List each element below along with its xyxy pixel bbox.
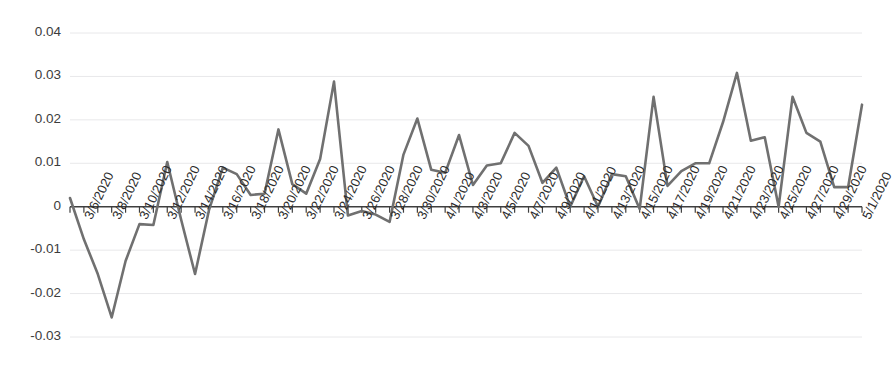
y-axis-tick-label: 0.04 (35, 24, 61, 39)
y-axis-tick-label: 0.03 (35, 67, 61, 82)
y-axis-tick-label: -0.03 (30, 328, 61, 343)
y-axis-tick-label: 0.02 (35, 111, 61, 126)
y-axis-tick-label: -0.02 (30, 285, 61, 300)
y-axis-tick-label: 0 (53, 198, 61, 213)
x-axis-tick-marks (70, 207, 862, 213)
y-axis-tick-label: 0.01 (35, 154, 61, 169)
y-axis-tick-label: -0.01 (30, 241, 61, 256)
